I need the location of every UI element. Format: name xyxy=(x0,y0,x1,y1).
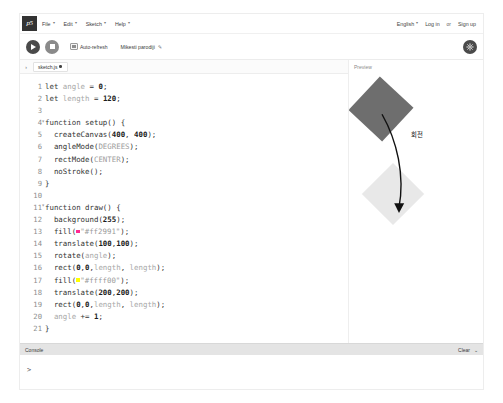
code-line-text: function draw() { xyxy=(45,202,121,214)
console-header: Console Clear ⌄ xyxy=(20,343,483,355)
menu-item-sketch[interactable]: Sketch ▾ xyxy=(86,21,106,27)
code-line-text: noStroke(); xyxy=(45,166,103,178)
fold-arrow-icon[interactable]: ▾ xyxy=(42,119,45,125)
code-line[interactable]: 1let angle = 0; xyxy=(20,81,348,93)
chevron-down-icon: ▾ xyxy=(75,22,77,26)
code-line[interactable]: 10 xyxy=(20,190,348,202)
code-line[interactable]: 21} xyxy=(20,323,348,335)
p5-logo-icon[interactable]: p5 xyxy=(22,16,37,31)
rotating-square-shape xyxy=(349,76,414,141)
toolbar: Auto-refresh Mikesti parodiji ✎ xyxy=(20,34,483,60)
code-line[interactable]: 6 angleMode(DEGREES); xyxy=(20,141,348,153)
code-line[interactable]: 5 createCanvas(400, 400); xyxy=(20,129,348,141)
preview-pane: Preview 회전 xyxy=(349,60,483,343)
code-line[interactable]: 3 xyxy=(20,105,348,117)
code-line[interactable]: 17 fill("#ffff00"); xyxy=(20,275,348,287)
sign-up-link[interactable]: Sign up xyxy=(458,21,476,27)
log-in-link[interactable]: Log in xyxy=(425,21,439,27)
code-line[interactable]: 18 translate(200,200); xyxy=(20,287,348,299)
line-number: 9 xyxy=(20,178,45,190)
code-line[interactable]: 12 background(255); xyxy=(20,214,348,226)
code-line-text: fill("#ff2991"); xyxy=(45,226,129,238)
code-line[interactable]: 16 rect(0,0,length, length); xyxy=(20,262,348,274)
file-tab-sketch-js[interactable]: sketch.js xyxy=(33,62,68,72)
code-line-text: } xyxy=(45,323,49,335)
code-line-text: rotate(angle); xyxy=(45,250,116,262)
code-line-text: createCanvas(400, 400); xyxy=(45,129,156,141)
checkbox-icon[interactable] xyxy=(70,43,78,51)
play-button[interactable] xyxy=(26,40,40,54)
line-number: 5 xyxy=(20,129,45,141)
console-clear-button[interactable]: Clear xyxy=(458,347,470,353)
sketch-canvas[interactable]: 회전 xyxy=(349,70,483,343)
settings-button[interactable] xyxy=(463,40,477,54)
code-line[interactable]: 11▾function draw() { xyxy=(20,202,348,214)
code-line[interactable]: 7 rectMode(CENTER); xyxy=(20,154,348,166)
code-line-text: } xyxy=(45,178,49,190)
menu-bar: p5 File ▾ Edit ▾ Sketch ▾ Help ▾ English… xyxy=(20,14,483,34)
pencil-icon[interactable]: ✎ xyxy=(158,43,163,49)
code-line[interactable]: 19 rect(0,0,length, length); xyxy=(20,299,348,311)
line-number: 10 xyxy=(20,190,45,202)
code-line-text: function setup() { xyxy=(45,117,125,129)
preview-label: Preview xyxy=(349,60,483,70)
line-number: 1 xyxy=(20,81,45,93)
code-line-text: translate(100,100); xyxy=(45,238,138,250)
chevron-down-icon[interactable]: ⌄ xyxy=(474,347,478,353)
code-line[interactable]: 14 translate(100,100); xyxy=(20,238,348,250)
code-line-text: angleMode(DEGREES); xyxy=(45,141,138,153)
line-number: 21 xyxy=(20,323,45,335)
p5-web-editor-window: p5 File ▾ Edit ▾ Sketch ▾ Help ▾ English… xyxy=(20,14,483,389)
stop-button[interactable] xyxy=(45,40,59,54)
console-actions: Clear ⌄ xyxy=(458,347,478,353)
login-signup-separator: or xyxy=(447,21,451,27)
menu-item-file-label: File xyxy=(42,21,51,27)
menu-item-sketch-label: Sketch xyxy=(86,21,102,27)
language-selector[interactable]: English ▾ xyxy=(397,21,418,27)
code-line[interactable]: 2let length = 120; xyxy=(20,93,348,105)
chevron-down-icon: ▾ xyxy=(128,22,130,26)
console-title: Console xyxy=(25,347,43,353)
line-number: 8 xyxy=(20,166,45,178)
annotation-label: 회전 xyxy=(411,130,423,139)
second-square-shape xyxy=(362,163,424,225)
line-number: 15 xyxy=(20,250,45,262)
code-line-text: let length = 120; xyxy=(45,93,121,105)
menu-item-help[interactable]: Help ▾ xyxy=(115,21,130,27)
code-line[interactable]: 9} xyxy=(20,178,348,190)
line-number: 19 xyxy=(20,299,45,311)
code-line[interactable]: 13 fill("#ff2991"); xyxy=(20,226,348,238)
color-swatch-icon[interactable] xyxy=(76,278,80,282)
menu-item-edit[interactable]: Edit ▾ xyxy=(64,21,77,27)
code-line[interactable]: 15 rotate(angle); xyxy=(20,250,348,262)
line-number: 3 xyxy=(20,105,45,117)
menu-item-edit-label: Edit xyxy=(64,21,73,27)
code-line-text: fill("#ffff00"); xyxy=(45,275,129,287)
fold-arrow-icon[interactable]: ▾ xyxy=(42,203,45,209)
console-output: > xyxy=(20,355,483,389)
language-selector-label: English xyxy=(397,21,414,27)
chevron-down-icon: ▾ xyxy=(416,22,418,26)
code-line[interactable]: 8 noStroke(); xyxy=(20,166,348,178)
code-line-text: rect(0,0,length, length); xyxy=(45,299,165,311)
auto-refresh-toggle[interactable]: Auto-refresh xyxy=(70,43,108,51)
menu-item-file[interactable]: File ▾ xyxy=(42,21,55,27)
code-line[interactable]: 20 angle += 1; xyxy=(20,311,348,323)
line-number: 13 xyxy=(20,226,45,238)
color-swatch-icon[interactable] xyxy=(76,230,80,234)
line-number: 20 xyxy=(20,311,45,323)
chevron-right-icon[interactable]: › xyxy=(23,64,29,70)
sketch-name-label: Mikesti parodiji xyxy=(121,44,155,50)
line-number: 17 xyxy=(20,275,45,287)
line-number: 6 xyxy=(20,141,45,153)
code-line[interactable]: 4▾function setup() { xyxy=(20,117,348,129)
file-tab-label: sketch.js xyxy=(38,64,57,70)
chevron-down-icon: ▾ xyxy=(104,22,106,26)
sketch-name-field[interactable]: Mikesti parodiji ✎ xyxy=(121,44,162,50)
editor-pane: › sketch.js 1let angle = 0;2let length =… xyxy=(20,60,349,343)
line-number: 14 xyxy=(20,238,45,250)
gear-icon xyxy=(466,43,474,51)
line-number: 11▾ xyxy=(20,202,45,214)
code-editor[interactable]: 1let angle = 0;2let length = 120;34▾func… xyxy=(20,74,348,343)
line-number: 16 xyxy=(20,262,45,274)
